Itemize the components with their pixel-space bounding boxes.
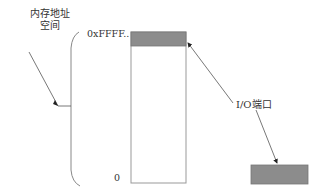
io-to-port-arrow — [256, 110, 277, 163]
memory-column — [131, 32, 186, 183]
io-port-block — [251, 165, 308, 184]
memory-label-arrow — [29, 52, 71, 106]
mapped-io-region — [131, 32, 186, 46]
address-space-brace — [71, 32, 80, 186]
diagram-canvas — [0, 0, 318, 192]
io-to-memory-arrow — [188, 43, 233, 103]
